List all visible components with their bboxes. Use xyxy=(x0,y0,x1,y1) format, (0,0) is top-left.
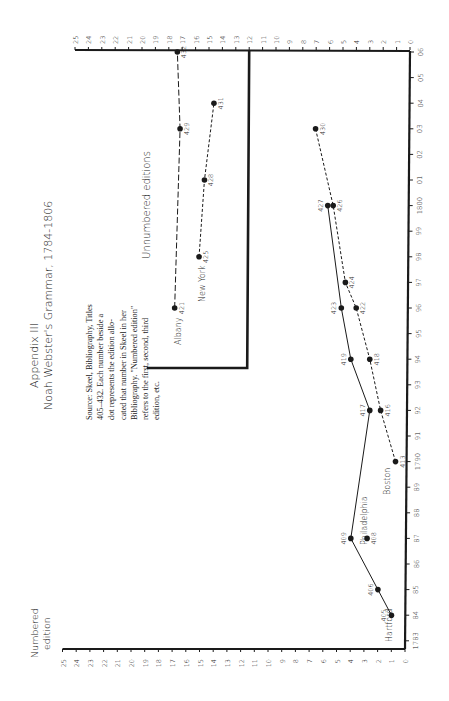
axis-title-line2: edition xyxy=(41,617,52,650)
year-tick-label: 88 xyxy=(413,508,421,517)
year-tick-label: 85 xyxy=(412,585,420,594)
bottom-tick-label: 3 xyxy=(361,659,369,663)
series-line xyxy=(175,52,180,308)
top-tick-label: 13 xyxy=(233,36,241,44)
bottom-tick-label: 18 xyxy=(155,659,163,667)
bottom-tick-label: 8 xyxy=(292,659,300,663)
bottom-tick-label: 12 xyxy=(238,659,246,667)
year-tick-label: 1790 xyxy=(414,453,422,470)
bottom-tick-label: 0 xyxy=(402,659,410,663)
city-philadelphia: Philadelphia xyxy=(360,496,369,545)
bottom-tick-label: 16 xyxy=(183,659,191,667)
top-tick-label: 23 xyxy=(99,36,107,44)
top-tick-label: 14 xyxy=(219,36,227,44)
bottom-tick-label: 9 xyxy=(279,659,287,663)
year-tick-label: 01 xyxy=(416,176,424,185)
top-tick-label: 8 xyxy=(300,40,308,44)
year-tick-label: 1800 xyxy=(416,197,424,214)
data-point xyxy=(177,126,183,132)
point-label: 422 xyxy=(359,302,367,314)
chart-title: Noah Webster's Grammar, 1784-1806 xyxy=(42,201,55,410)
top-tick-label: 18 xyxy=(166,36,174,44)
city-boston: Boston xyxy=(383,468,392,495)
top-tick-label: 24 xyxy=(85,36,93,44)
data-point xyxy=(202,177,208,183)
data-point xyxy=(353,305,359,311)
top-tick-label: 2 xyxy=(380,40,388,44)
top-tick-label: 0 xyxy=(407,40,415,44)
text-layer: Appendix IIINoah Webster's Grammar, 1784… xyxy=(28,151,394,658)
city-hartford: Hartford xyxy=(385,609,394,642)
top-tick-label: 6 xyxy=(327,40,335,44)
top-tick-label: 7 xyxy=(313,40,321,44)
top-tick-label: 19 xyxy=(152,36,160,44)
chart: 0011223344556677889910101111121213131414… xyxy=(0,0,449,701)
year-tick-label: 87 xyxy=(413,534,421,543)
top-tick-label: 11 xyxy=(260,36,268,44)
appendix-label: Appendix III xyxy=(28,323,41,388)
point-label: 418 xyxy=(373,353,381,365)
point-label: 417 xyxy=(359,404,367,416)
year-tick-label: 91 xyxy=(414,432,422,441)
bottom-tick-label: 1 xyxy=(388,659,396,663)
bottom-tick-label: 2 xyxy=(375,659,383,663)
data-point xyxy=(378,408,384,414)
point-label: 432 xyxy=(180,46,188,58)
bottom-tick-label: 25 xyxy=(60,659,68,667)
bottom-tick-label: 21 xyxy=(114,659,122,667)
data-point xyxy=(325,203,331,209)
top-tick-label: 16 xyxy=(193,36,201,44)
data-point xyxy=(348,536,354,542)
point-label: 421 xyxy=(178,302,186,314)
data-point xyxy=(172,305,178,311)
source-note-line: Bibliography. "Numbered edition" xyxy=(130,306,139,420)
top-tick-label: 25 xyxy=(72,36,80,44)
bottom-tick-label: 17 xyxy=(169,659,177,667)
data-point xyxy=(330,203,336,209)
year-tick-label: 97 xyxy=(415,278,423,287)
source-note-line: dot represents the edition allo- xyxy=(107,319,116,420)
data-point xyxy=(196,254,202,260)
year-tick-label: 05 xyxy=(417,73,425,82)
top-tick-label: 9 xyxy=(286,40,294,44)
point-label: 431 xyxy=(217,97,225,109)
top-tick-label: 15 xyxy=(206,36,214,44)
bottom-tick-label: 23 xyxy=(87,659,95,667)
data-point xyxy=(375,587,381,593)
data-point xyxy=(367,356,373,362)
data-point xyxy=(313,126,319,132)
point-label: 425 xyxy=(202,251,210,263)
top-tick-label: 22 xyxy=(112,36,120,44)
year-tick-label: 06 xyxy=(417,48,425,57)
point-label: 409 xyxy=(340,532,348,544)
point-label: 419 xyxy=(340,353,348,365)
bottom-tick-label: 13 xyxy=(224,659,232,667)
year-tick-label: 1783 xyxy=(412,632,420,649)
bottom-tick-label: 11 xyxy=(251,659,259,667)
top-tick-label: 12 xyxy=(246,36,254,44)
data-point xyxy=(175,49,181,55)
top-axis-line xyxy=(75,50,410,51)
year-tick-label: 94 xyxy=(414,355,422,364)
point-label: 424 xyxy=(348,276,356,288)
point-label: 406 xyxy=(367,583,375,595)
point-label: 426 xyxy=(336,199,344,211)
year-tick-label: 89 xyxy=(413,483,421,492)
city-albany: Albany xyxy=(174,317,183,345)
point-label: 408 xyxy=(370,532,378,544)
right-axis-line xyxy=(405,51,410,649)
year-tick-label: 86 xyxy=(413,560,421,569)
city-new-york: New York xyxy=(198,265,207,302)
data-point xyxy=(393,459,399,465)
year-tick-label: 04 xyxy=(417,99,425,108)
point-label: 430 xyxy=(319,123,327,135)
data-point xyxy=(367,408,373,414)
top-tick-label: 1 xyxy=(394,40,402,44)
source-note-line: refers to the first, second, third xyxy=(141,317,150,420)
bottom-tick-label: 14 xyxy=(210,659,218,667)
bottom-tick-label: 5 xyxy=(334,659,342,663)
bottom-tick-label: 15 xyxy=(197,659,205,667)
bottom-tick-label: 22 xyxy=(101,659,109,667)
top-tick-label: 10 xyxy=(273,36,281,44)
series-layer: 4054064094174194234274084134164184224244… xyxy=(172,46,407,622)
